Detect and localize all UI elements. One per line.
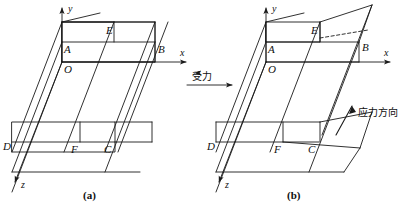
panel-a-vertex-A: A [64,44,71,55]
panel-b-solid [216,3,381,192]
panel-a-oblique-2 [12,42,62,172]
panel-a-axis-label-y: y [68,4,72,14]
panel-a-depth-topright-hidden [155,13,193,22]
panel-a-lower-face-upper [12,122,115,152]
panel-a-oblique-mid [64,22,114,152]
panel-b-axis-label-x: x [384,48,388,58]
panel-b-oblique-1 [216,22,266,152]
panel-a-vertex-F: F [71,144,78,155]
panel-b-axis-label-y: y [272,4,276,14]
panel-a-axis-label-x: x [180,48,184,58]
panel-a-oblique-right-outer2 [118,42,168,172]
panel-b-vertex-A: A [268,44,275,55]
panel-a-axis-label-z: z [21,180,25,190]
panel-b-depth-topleft [266,13,304,22]
stress-arrow-line [336,106,352,135]
panel-a-axes [15,8,186,182]
figure-container: y x z O A B E D F C y x z O A B E D F C … [0,0,409,209]
panel-b-oblique-mid [270,22,320,152]
panel-a-vertex-D: D [3,141,11,152]
stress-direction-label: 应力方向 [358,108,398,118]
figure-drawing [0,0,409,209]
panel-b-vertex-D: D [207,141,215,152]
stress-direction-arrow [336,106,356,135]
panel-a-oblique-1 [12,22,62,152]
panel-b-vertex-E: E [311,25,318,36]
panel-a-vertex-B: B [158,44,165,55]
panel-b-vertex-O: O [268,64,276,75]
caption-a: (a) [83,190,96,201]
panel-b-oblique-2 [216,42,266,172]
panel-a-oblique-right-outer [118,22,168,152]
panel-b-right-lower-close2 [344,148,360,172]
panel-b-shear-top-edge [320,5,372,22]
panel-b-vertex-B: B [362,42,369,53]
panel-a-vertex-E: E [106,25,113,36]
panel-a-oblique-right-2 [105,42,155,172]
panel-a-depth-topleft [62,13,100,22]
force-label: 受力 [192,72,212,82]
caption-b: (b) [287,190,300,201]
panel-a-vertex-C: C [104,144,111,155]
panel-b-axis-label-z: z [225,180,229,190]
panel-b-vertex-F: F [274,144,281,155]
panel-b-vertex-C: C [308,144,315,155]
panel-a-vertex-O: O [64,64,72,75]
panel-a-oblique-right-1 [105,22,155,152]
panel-b-depth-topright [372,3,378,5]
panel-a-solid [12,13,193,192]
